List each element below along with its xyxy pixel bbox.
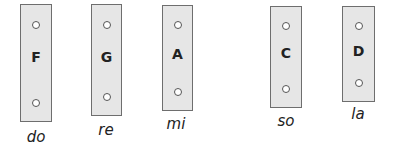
hole-icon (32, 99, 40, 107)
hole-icon (32, 21, 40, 29)
note-label: G (92, 49, 121, 65)
hole-icon (355, 22, 363, 30)
bar-f: F (20, 4, 52, 122)
hole-icon (103, 93, 111, 101)
bar-d: D (342, 6, 375, 102)
hole-icon (282, 22, 290, 30)
note-label: F (21, 49, 51, 65)
hole-icon (174, 21, 182, 29)
note-label: A (163, 46, 192, 62)
hole-icon (282, 85, 290, 93)
syllable-label: re (86, 121, 126, 139)
bar-a: A (162, 5, 193, 111)
hole-icon (174, 88, 182, 96)
bar-c: C (270, 6, 302, 108)
bar-g: G (91, 4, 122, 116)
note-label: C (271, 45, 301, 61)
syllable-label: mi (156, 115, 196, 133)
syllable-label: la (338, 105, 378, 123)
note-label: D (343, 43, 374, 59)
hole-icon (103, 21, 111, 29)
syllable-label: do (16, 128, 56, 146)
syllable-label: so (266, 112, 306, 130)
hole-icon (355, 79, 363, 87)
